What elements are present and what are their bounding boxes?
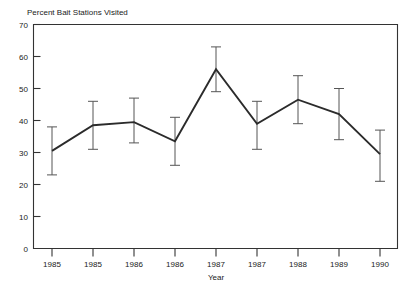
y-tick-label-0: 0 <box>24 245 29 254</box>
x-tick-label-8: 1990 <box>371 260 389 269</box>
x-tick-label-0: 1985 <box>43 260 61 269</box>
y-tick-group-0: 0 <box>24 245 29 254</box>
x-tick-label-4: 1987 <box>207 260 225 269</box>
y-tick-label-10: 10 <box>19 213 28 222</box>
x-tick-label-3: 1986 <box>166 260 184 269</box>
y-tick-label-50: 50 <box>19 85 28 94</box>
y-tick-label-30: 30 <box>19 149 28 158</box>
line-chart: Percent Bait Stations Visited 70 60 50 4… <box>0 0 413 289</box>
x-tick-label-1: 1985 <box>84 260 102 269</box>
x-axis-label: Year <box>208 273 225 282</box>
x-tick-label-2: 1986 <box>125 260 143 269</box>
y-tick-label-20: 20 <box>19 181 28 190</box>
x-tick-label-5: 1987 <box>248 260 266 269</box>
x-tick-label-7: 1989 <box>330 260 348 269</box>
y-tick-label-40: 40 <box>19 117 28 126</box>
y-tick-label-70: 70 <box>19 21 28 30</box>
chart-title: Percent Bait Stations Visited <box>27 8 128 17</box>
y-tick-label-60: 60 <box>19 53 28 62</box>
x-tick-label-6: 1988 <box>289 260 307 269</box>
chart-page: Percent Bait Stations Visited 70 60 50 4… <box>0 0 413 289</box>
